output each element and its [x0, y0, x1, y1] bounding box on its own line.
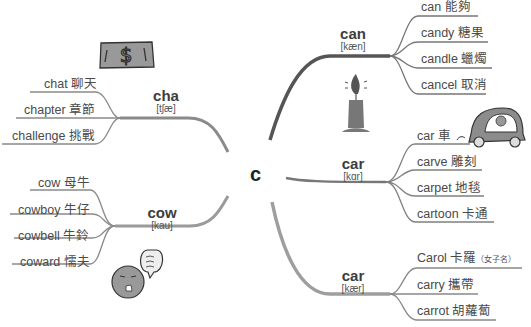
- branch-word: cha: [146, 88, 186, 103]
- branch-word: car: [333, 156, 373, 171]
- leaf-can: can 能夠: [421, 0, 471, 14]
- leaf-cartoon: cartoon 卡通: [417, 207, 488, 221]
- leaf-candy: candy 糖果: [421, 26, 484, 40]
- leaf-coward: coward 懦夫: [20, 255, 90, 269]
- center-letter: c: [250, 163, 261, 186]
- leaf-cowbell: cowbell 牛鈴: [18, 229, 89, 243]
- branch-phonetic: [kau]: [142, 221, 182, 231]
- branch-phonetic: [kɑr]: [333, 172, 373, 182]
- branch-head-cow: cow [kau]: [142, 205, 182, 231]
- leaf-cowboy: cowboy 牛仔: [18, 203, 90, 217]
- branch-head-cha: cha [tʃæ]: [146, 88, 186, 114]
- branch-phonetic: [kæn]: [333, 42, 373, 52]
- branch-word: car: [333, 268, 373, 283]
- leaf-carry: carry 攜帶: [417, 278, 474, 292]
- leaf-carve: carve 雕刻: [417, 155, 477, 169]
- scared-face-with-speech-bubble-icon: [104, 246, 174, 302]
- candle-icon: [336, 70, 376, 136]
- branch-head-car-kar: car [kɑr]: [333, 156, 373, 182]
- leaf-label: Carol 卡羅: [417, 251, 476, 265]
- car-with-driver-icon: [455, 104, 529, 150]
- svg-text:$: $: [120, 43, 133, 67]
- leaf-cow: cow 母牛: [38, 176, 90, 190]
- leaf-carrot: carrot 胡蘿蔔: [417, 304, 491, 318]
- leaf-carol: Carol 卡羅（女子名）: [417, 251, 516, 267]
- leaf-candle: candle 蠟燭: [421, 52, 487, 66]
- branch-word: can: [333, 26, 373, 41]
- leaf-cancel: cancel 取消: [421, 78, 487, 92]
- leaf-chat: chat 聊天: [44, 77, 97, 91]
- branch-head-can: can [kæn]: [333, 26, 373, 52]
- dollar-bill-icon: $: [97, 40, 155, 70]
- leaf-carpet: carpet 地毯: [417, 181, 481, 195]
- leaf-car: car 車: [417, 129, 451, 143]
- leaf-note: （女子名）: [476, 255, 516, 264]
- leaf-challenge: challenge 挑戰: [12, 129, 95, 143]
- branch-word: cow: [142, 205, 182, 220]
- branch-phonetic: [tʃæ]: [146, 104, 186, 114]
- branch-phonetic: [kær]: [333, 284, 373, 294]
- leaf-chapter: chapter 章節: [24, 103, 95, 117]
- branch-head-car-kaer: car [kær]: [333, 268, 373, 294]
